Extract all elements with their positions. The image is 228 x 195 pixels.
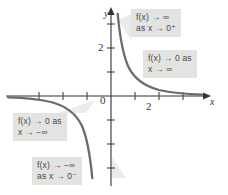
callout-line-2: x → −∞ xyxy=(18,127,62,138)
callout-limit-x-to-infinity: f(x) → 0 as x → ∞ xyxy=(143,50,197,78)
origin-tick-label: 0 xyxy=(100,94,106,106)
callout-line-2: x → ∞ xyxy=(148,64,192,75)
callout-line-2: as x → 0⁺ xyxy=(136,23,176,34)
x-tick-label-2: 2 xyxy=(146,100,152,112)
callout-limit-left-of-zero: f(x) → −∞ as x → 0⁻ xyxy=(32,157,82,185)
callout-line-2: as x → 0⁻ xyxy=(37,171,77,182)
y-axis-arrowhead xyxy=(108,7,115,15)
callout-limit-right-of-zero: f(x) → ∞ as x → 0⁺ xyxy=(131,9,181,37)
callout-line-1: f(x) → 0 as xyxy=(18,116,62,127)
callout-limit-x-to-negative-infinity: f(x) → 0 as x → −∞ xyxy=(13,113,67,141)
callout-line-1: f(x) → ∞ xyxy=(136,12,176,23)
callout-line-1: f(x) → −∞ xyxy=(37,160,77,171)
x-axis-label: x xyxy=(210,96,214,107)
y-tick-label-2: 2 xyxy=(98,41,104,53)
y-axis-label: y xyxy=(104,8,108,19)
callout-line-1: f(x) → 0 as xyxy=(148,53,192,64)
